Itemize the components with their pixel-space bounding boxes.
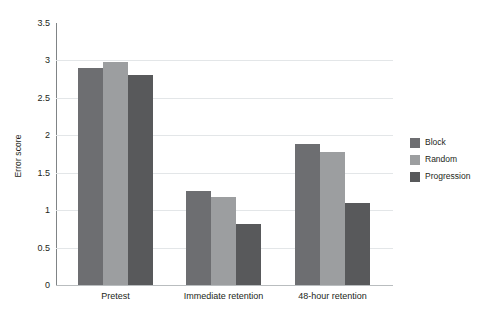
legend-label: Random <box>425 155 457 164</box>
legend-item[interactable]: Progression <box>410 169 492 184</box>
legend-label: Block <box>425 138 446 147</box>
legend-item[interactable]: Random <box>410 152 492 167</box>
bar[interactable] <box>236 224 261 285</box>
bar-chart-figure: Error score 00.511.522.533.5 PretestImme… <box>0 0 495 312</box>
x-axis-category-label: Immediate retention <box>184 291 264 301</box>
legend-swatch <box>410 172 420 182</box>
y-axis-tick-label: 2 <box>6 130 50 140</box>
y-axis-tick-label: 2.5 <box>6 93 50 103</box>
bar-group <box>78 23 153 285</box>
legend-item[interactable]: Block <box>410 135 492 150</box>
plot-area <box>56 23 393 285</box>
x-axis-category-label: Pretest <box>101 291 130 301</box>
bar[interactable] <box>345 203 370 285</box>
bar[interactable] <box>103 62 128 285</box>
bar-group <box>295 23 370 285</box>
legend: BlockRandomProgression <box>410 135 492 186</box>
x-axis-category-label: 48-hour retention <box>298 291 367 301</box>
y-axis-tick-label: 3.5 <box>6 18 50 28</box>
bar[interactable] <box>211 197 236 285</box>
y-axis-tick-label: 1 <box>6 205 50 215</box>
bar[interactable] <box>320 152 345 285</box>
y-axis-tick-label: 3 <box>6 55 50 65</box>
gridline <box>56 285 393 286</box>
legend-swatch <box>410 138 420 148</box>
bar[interactable] <box>128 75 153 285</box>
bar-group <box>186 23 261 285</box>
bar[interactable] <box>186 191 211 285</box>
legend-swatch <box>410 155 420 165</box>
bar[interactable] <box>295 144 320 285</box>
y-axis-tick-labels: 00.511.522.533.5 <box>0 23 50 285</box>
y-axis-tick-label: 0 <box>6 280 50 290</box>
legend-label: Progression <box>425 172 470 181</box>
y-axis-tick-label: 0.5 <box>6 243 50 253</box>
bar[interactable] <box>78 68 103 285</box>
y-axis-tick-label: 1.5 <box>6 168 50 178</box>
